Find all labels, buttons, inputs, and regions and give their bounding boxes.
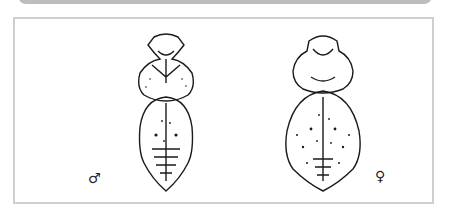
top-header-bar [18,0,432,4]
figure-panel: ♂ ♀ [13,17,434,204]
female-specimen-drawing [273,31,373,196]
female-symbol: ♀ [375,169,385,183]
male-symbol: ♂ [88,171,101,185]
male-specimen-drawing [116,31,216,196]
